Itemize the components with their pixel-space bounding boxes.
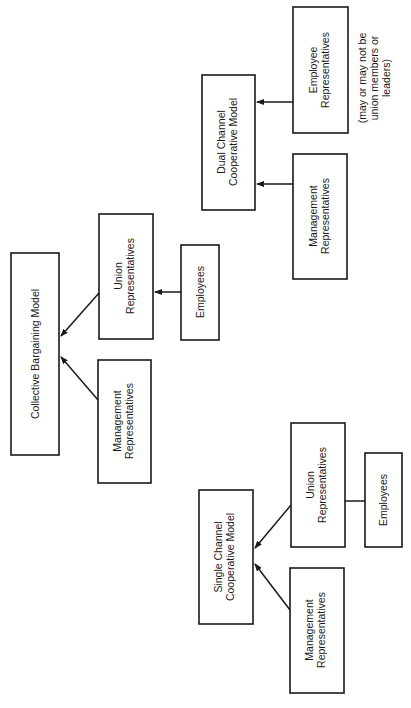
cbm-management-box: Management Representatives — [98, 360, 151, 483]
single-channel-model-group: Single Channel Cooperative Model Union R… — [199, 423, 402, 693]
cbm-union-to-model-arrow — [61, 293, 99, 336]
scm-union-line1: Union — [304, 471, 316, 499]
scm-title-line2: Cooperative Model — [224, 513, 236, 601]
cbm-employees-box: Employees — [181, 245, 219, 340]
dcm-management-box: Management Representatives — [293, 154, 347, 279]
labor-models-diagram: Collective Bargaining Model Union Repres… — [0, 0, 411, 708]
cbm-union-box: Union Representatives — [99, 214, 153, 339]
cbm-title-box: Collective Bargaining Model — [11, 253, 59, 455]
dcm-note-line1: (may or may not be — [356, 33, 368, 124]
scm-management-line1: Management — [303, 599, 315, 660]
scm-union-to-model-arrow — [255, 505, 291, 548]
dcm-management-line2: Representatives — [319, 178, 331, 254]
dcm-title-line2: Cooperative Model — [227, 98, 239, 186]
scm-management-line2: Representatives — [315, 592, 327, 668]
scm-management-to-model-arrow — [255, 564, 290, 610]
dcm-employee-reps-box: Employee Representatives — [293, 7, 348, 133]
cbm-title: Collective Bargaining Model — [29, 289, 41, 419]
dcm-employee-reps-line1: Employee — [307, 47, 319, 94]
cbm-management-line1: Management — [111, 390, 123, 451]
scm-union-box: Union Representatives — [291, 423, 345, 547]
scm-employees: Employees — [377, 474, 389, 526]
dcm-note: (may or may not be union members or lead… — [356, 33, 392, 124]
collective-bargaining-model-group: Collective Bargaining Model Union Repres… — [11, 214, 219, 483]
cbm-management-line2: Representatives — [123, 383, 135, 459]
cbm-employees: Employees — [194, 266, 206, 318]
cbm-union-line1: Union — [112, 262, 124, 290]
scm-title-box: Single Channel Cooperative Model — [199, 490, 253, 624]
dcm-note-line2: union members or — [368, 35, 380, 120]
scm-title-line1: Single Channel — [212, 521, 224, 592]
scm-management-box: Management Representatives — [290, 568, 344, 693]
dcm-note-line3: leaders) — [380, 59, 392, 97]
dcm-management-line1: Management — [307, 185, 319, 246]
dcm-employee-reps-line2: Representatives — [319, 32, 331, 108]
dcm-title-box: Dual Channel Cooperative Model — [202, 75, 255, 210]
dual-channel-model-group: Dual Channel Cooperative Model Employee … — [202, 7, 392, 279]
cbm-union-line2: Representatives — [124, 238, 136, 314]
scm-employees-box: Employees — [365, 453, 402, 547]
dcm-title-line1: Dual Channel — [215, 110, 227, 174]
cbm-management-to-model-arrow — [61, 357, 98, 400]
scm-union-line2: Representatives — [316, 447, 328, 523]
